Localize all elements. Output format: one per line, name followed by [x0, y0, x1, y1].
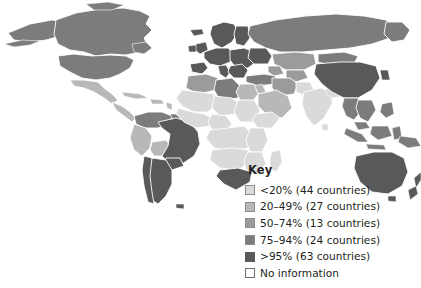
legend-label-20-49: 20–49% (27 countries) [260, 201, 380, 212]
legend-label-gt95: >95% (63 countries) [260, 251, 370, 262]
legend-item-gt95: >95% (63 countries) [245, 248, 418, 265]
region-iceland [190, 29, 204, 36]
region-ukraine [248, 48, 272, 64]
legend-label-lt20: <20% (44 countries) [260, 185, 370, 196]
legend-label-50-74: 50–74% (13 countries) [260, 218, 380, 229]
region-sumatra [344, 128, 368, 142]
legend-swatch-lt20 [245, 185, 255, 195]
region-sri-lanka [322, 124, 328, 131]
legend-swatch-no-information [245, 268, 255, 278]
region-finland-baltic [234, 26, 250, 46]
region-east-africa [246, 128, 268, 152]
region-java [366, 144, 386, 150]
legend-swatch-20-49 [245, 202, 255, 212]
legend-item-75-94: 75–94% (24 countries) [245, 232, 418, 249]
legend-label-75-94: 75–94% (24 countries) [260, 235, 380, 246]
legend-label-no-information: No information [260, 268, 339, 279]
legend-item-lt20: <20% (44 countries) [245, 182, 418, 199]
legend-item-20-49: 20–49% (27 countries) [245, 199, 418, 216]
region-malaysia [354, 122, 370, 130]
region-iberia [190, 62, 208, 74]
region-lesser-antilles [166, 102, 172, 110]
region-cuba [122, 92, 148, 99]
region-greenland [152, 5, 196, 44]
region-japan [390, 58, 408, 86]
legend-item-50-74: 50–74% (13 countries) [245, 215, 418, 232]
region-philippines [380, 102, 394, 118]
region-western-europe [204, 48, 234, 66]
legend-title: Key [248, 163, 418, 177]
region-falklands [176, 204, 184, 209]
world-map-figure: Key <20% (44 countries) 20–49% (27 count… [0, 0, 421, 288]
legend-swatch-50-74 [245, 218, 255, 228]
region-mexico [70, 80, 118, 104]
region-russia [248, 14, 396, 52]
legend-swatch-gt95 [245, 252, 255, 262]
region-ethiopia-horn [252, 112, 280, 128]
region-aleutians [4, 40, 40, 47]
region-central-america [112, 102, 136, 122]
legend-swatch-75-94 [245, 235, 255, 245]
region-korea [380, 70, 390, 80]
region-borneo [370, 126, 392, 140]
region-new-guinea [398, 136, 421, 148]
region-canada-east [132, 42, 152, 54]
region-egypt [236, 84, 258, 102]
region-ireland [188, 45, 196, 52]
region-united-states [58, 54, 134, 80]
map-legend: Key <20% (44 countries) 20–49% (27 count… [243, 163, 418, 282]
region-peru-ecuador [130, 124, 152, 156]
region-indochina [356, 100, 376, 122]
legend-item-no-information: No information [245, 265, 418, 282]
region-hispaniola [150, 99, 164, 104]
